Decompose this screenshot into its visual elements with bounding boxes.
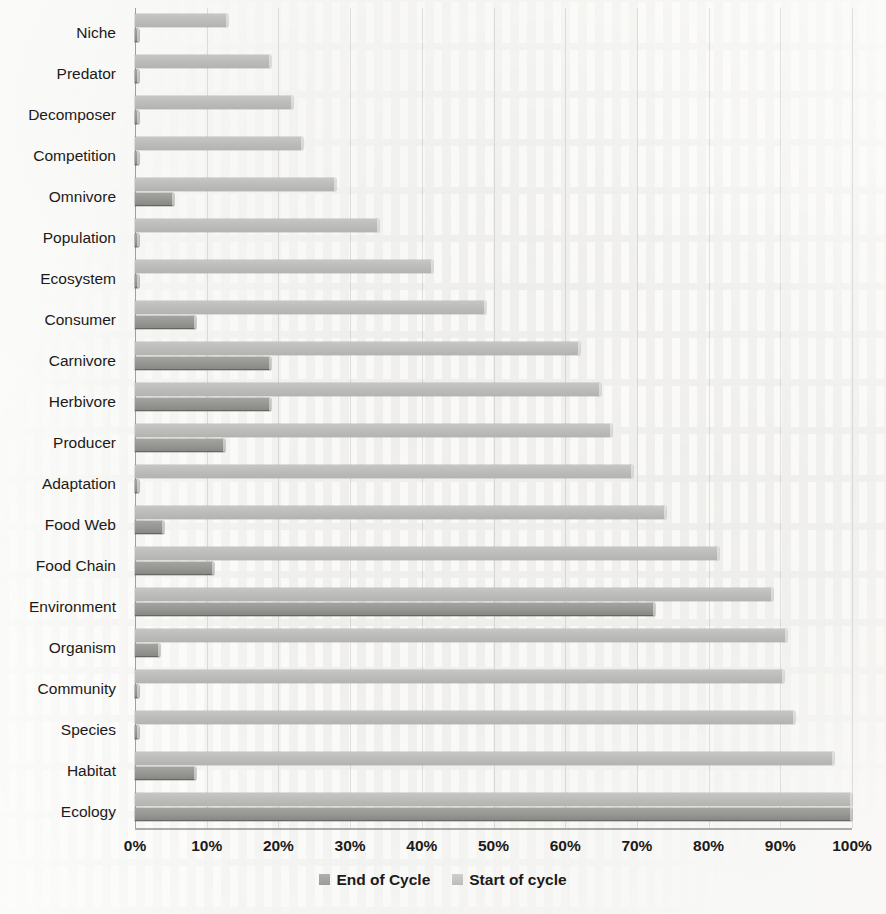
chart-legend: End of CycleStart of cycle <box>0 872 886 888</box>
bar-group <box>135 465 852 506</box>
bar-start-of-cycle[interactable] <box>135 588 773 601</box>
category-label-adaptation: Adaptation <box>42 476 116 492</box>
x-axis-tick-60pct: 60% <box>550 838 581 854</box>
legend-item-end-of-cycle[interactable]: End of Cycle <box>319 872 430 888</box>
bar-end-of-cycle[interactable] <box>135 111 139 124</box>
x-axis-tick-70pct: 70% <box>621 838 652 854</box>
bar-group <box>135 301 852 342</box>
bar-end-of-cycle[interactable] <box>135 70 139 83</box>
x-axis-tick-20pct: 20% <box>263 838 294 854</box>
bar-end-of-cycle[interactable] <box>135 603 655 616</box>
x-axis-tick-30pct: 30% <box>335 838 366 854</box>
bar-group <box>135 629 852 670</box>
bar-group <box>135 96 852 137</box>
bar-end-of-cycle[interactable] <box>135 439 225 452</box>
bar-start-of-cycle[interactable] <box>135 219 379 232</box>
bar-start-of-cycle[interactable] <box>135 424 612 437</box>
bar-start-of-cycle[interactable] <box>135 342 580 355</box>
x-axis-tick-80pct: 80% <box>693 838 724 854</box>
category-label-food-web: Food Web <box>45 517 116 533</box>
category-label-food-chain: Food Chain <box>36 558 116 574</box>
category-label-producer: Producer <box>53 435 116 451</box>
x-axis-line <box>135 828 852 830</box>
bar-start-of-cycle[interactable] <box>135 670 784 683</box>
bar-end-of-cycle[interactable] <box>135 357 271 370</box>
bar-end-of-cycle[interactable] <box>135 480 139 493</box>
gridline-100pct <box>852 8 853 828</box>
x-axis-tick-10pct: 10% <box>191 838 222 854</box>
bar-start-of-cycle[interactable] <box>135 547 719 560</box>
category-label-consumer: Consumer <box>45 312 117 328</box>
bar-start-of-cycle[interactable] <box>135 178 336 191</box>
bar-group <box>135 383 852 424</box>
bar-group <box>135 547 852 588</box>
legend-label: End of Cycle <box>336 872 430 888</box>
x-axis-tick-90pct: 90% <box>765 838 796 854</box>
category-axis-labels: NichePredatorDecomposerCompetitionOmnivo… <box>0 8 126 828</box>
bar-group <box>135 342 852 383</box>
bar-end-of-cycle[interactable] <box>135 193 174 206</box>
bar-end-of-cycle[interactable] <box>135 316 196 329</box>
bar-end-of-cycle[interactable] <box>135 29 139 42</box>
bar-start-of-cycle[interactable] <box>135 96 293 109</box>
bar-group <box>135 752 852 793</box>
bar-end-of-cycle[interactable] <box>135 808 852 821</box>
category-label-community: Community <box>38 681 116 697</box>
bar-end-of-cycle[interactable] <box>135 275 139 288</box>
bar-end-of-cycle[interactable] <box>135 644 160 657</box>
bar-group <box>135 55 852 96</box>
bar-group <box>135 711 852 752</box>
plot-area <box>135 8 852 828</box>
legend-item-start-of-cycle[interactable]: Start of cycle <box>452 872 566 888</box>
value-axis-labels: 0%10%20%30%40%50%60%70%80%90%100% <box>0 838 886 864</box>
category-label-decomposer: Decomposer <box>28 107 116 123</box>
bar-end-of-cycle[interactable] <box>135 234 139 247</box>
bar-start-of-cycle[interactable] <box>135 55 271 68</box>
category-label-environment: Environment <box>29 599 116 615</box>
legend-swatch-end-of-cycle <box>319 874 330 885</box>
category-label-niche: Niche <box>76 25 116 41</box>
x-axis-tick-40pct: 40% <box>406 838 437 854</box>
bar-start-of-cycle[interactable] <box>135 793 852 806</box>
category-label-predator: Predator <box>57 66 116 82</box>
bar-start-of-cycle[interactable] <box>135 383 601 396</box>
bar-group <box>135 14 852 55</box>
bar-start-of-cycle[interactable] <box>135 752 834 765</box>
bar-end-of-cycle[interactable] <box>135 521 164 534</box>
category-label-carnivore: Carnivore <box>49 353 116 369</box>
bar-start-of-cycle[interactable] <box>135 629 787 642</box>
bar-group <box>135 670 852 711</box>
category-label-ecology: Ecology <box>61 804 116 820</box>
category-label-population: Population <box>43 230 116 246</box>
bar-start-of-cycle[interactable] <box>135 137 303 150</box>
bar-start-of-cycle[interactable] <box>135 506 666 519</box>
category-label-habitat: Habitat <box>67 763 116 779</box>
bar-start-of-cycle[interactable] <box>135 260 433 273</box>
bar-group <box>135 424 852 465</box>
bar-end-of-cycle[interactable] <box>135 726 139 739</box>
legend-label: Start of cycle <box>469 872 566 888</box>
bar-group <box>135 219 852 260</box>
category-label-ecosystem: Ecosystem <box>40 271 116 287</box>
bar-end-of-cycle[interactable] <box>135 562 214 575</box>
legend-swatch-start-of-cycle <box>452 874 463 885</box>
bar-end-of-cycle[interactable] <box>135 685 139 698</box>
category-label-species: Species <box>61 722 116 738</box>
category-label-organism: Organism <box>49 640 116 656</box>
bar-chart: NichePredatorDecomposerCompetitionOmnivo… <box>0 0 886 914</box>
x-axis-tick-50pct: 50% <box>478 838 509 854</box>
bar-start-of-cycle[interactable] <box>135 711 795 724</box>
bar-group <box>135 260 852 301</box>
bar-group <box>135 506 852 547</box>
bar-group <box>135 137 852 178</box>
category-label-herbivore: Herbivore <box>49 394 116 410</box>
bar-start-of-cycle[interactable] <box>135 301 486 314</box>
bar-end-of-cycle[interactable] <box>135 152 139 165</box>
bar-start-of-cycle[interactable] <box>135 14 228 27</box>
bar-end-of-cycle[interactable] <box>135 398 271 411</box>
bar-group <box>135 588 852 629</box>
category-label-competition: Competition <box>33 148 116 164</box>
bar-group <box>135 178 852 219</box>
bar-start-of-cycle[interactable] <box>135 465 633 478</box>
bar-end-of-cycle[interactable] <box>135 767 196 780</box>
